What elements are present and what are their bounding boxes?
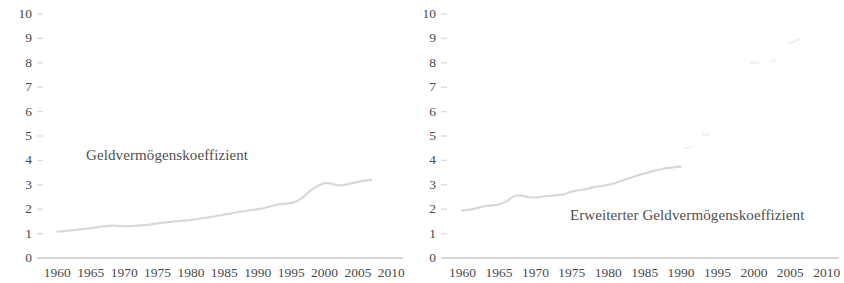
x-axis-tick-label: 1995 bbox=[697, 266, 737, 280]
series-line-faded-fragment bbox=[789, 40, 799, 44]
y-axis-tick-label: 8 bbox=[2, 56, 32, 70]
y-axis-tick-label: 10 bbox=[2, 7, 32, 21]
y-axis-tick-label: 6 bbox=[406, 105, 436, 119]
y-axis-tick-label: 6 bbox=[2, 105, 32, 119]
x-axis-tick-label: 2000 bbox=[734, 266, 774, 280]
series-line-faded-fragment bbox=[685, 147, 692, 148]
y-axis-tick-label: 4 bbox=[406, 153, 436, 167]
x-axis-tick-label: 2010 bbox=[807, 266, 844, 280]
series-label-geldvermoegenskoeffizient: Geldvermögenskoeffizient bbox=[86, 147, 248, 164]
y-axis-tick-label: 5 bbox=[2, 129, 32, 143]
y-axis-tick-label: 7 bbox=[406, 80, 436, 94]
x-axis-tick-label: 1970 bbox=[515, 266, 555, 280]
chart-panel-right: 0123456789101960196519701975198019851990… bbox=[410, 0, 844, 283]
y-axis-tick-label: 10 bbox=[406, 7, 436, 21]
y-axis-tick-label: 2 bbox=[406, 202, 436, 216]
series-line bbox=[57, 180, 371, 232]
y-axis-tick-label: 0 bbox=[406, 251, 436, 265]
x-axis-tick-label: 1960 bbox=[443, 266, 483, 280]
chart-panel-left: 0123456789101960196519701975198019851990… bbox=[0, 0, 410, 283]
y-axis-tick-label: 7 bbox=[2, 80, 32, 94]
y-axis-tick-label: 3 bbox=[2, 178, 32, 192]
left-chart-plot bbox=[0, 0, 410, 283]
y-axis-tick-label: 4 bbox=[2, 153, 32, 167]
series-line-faded-fragment bbox=[771, 60, 776, 61]
y-axis-tick-label: 9 bbox=[406, 31, 436, 45]
right-chart-plot bbox=[410, 0, 844, 283]
x-axis-tick-label: 1985 bbox=[625, 266, 665, 280]
y-axis-tick-label: 9 bbox=[2, 31, 32, 45]
y-axis-tick-label: 1 bbox=[406, 227, 436, 241]
x-axis-tick-label: 1965 bbox=[479, 266, 519, 280]
y-axis-tick-label: 3 bbox=[406, 178, 436, 192]
x-axis-tick-label: 1975 bbox=[552, 266, 592, 280]
series-line bbox=[463, 167, 681, 211]
x-axis-tick-label: 1980 bbox=[588, 266, 628, 280]
x-axis-tick-label: 2005 bbox=[770, 266, 810, 280]
x-axis-tick-label: 1990 bbox=[661, 266, 701, 280]
x-axis-tick-label: 2010 bbox=[371, 266, 411, 280]
y-axis-tick-label: 0 bbox=[2, 251, 32, 265]
y-axis-tick-label: 2 bbox=[2, 202, 32, 216]
figure-container: 0123456789101960196519701975198019851990… bbox=[0, 0, 844, 283]
y-axis-tick-label: 5 bbox=[406, 129, 436, 143]
y-axis-tick-label: 1 bbox=[2, 227, 32, 241]
series-label-erweiterter-geldvermoegenskoeffizient: Erweiterter Geldvermögenskoeffizient bbox=[570, 207, 804, 224]
y-axis-tick-label: 8 bbox=[406, 56, 436, 70]
